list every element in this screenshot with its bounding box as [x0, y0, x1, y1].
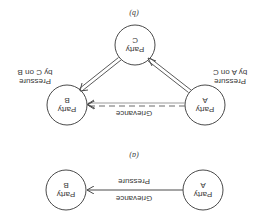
panel-a-pressure-label: Pressure [103, 177, 165, 186]
panel-b-caption: (b) [123, 9, 145, 18]
panel-b-party-a: Party A [185, 85, 225, 125]
panel-b-party-c: Party C [115, 25, 155, 65]
panel-b-pressure-a-on-c-label: Pressure by A on C [204, 68, 256, 86]
panel-b-pressure-c-on-b-label: Pressure by C on B [9, 68, 61, 86]
figure: Party A Party B Grievance Pressure (a) P… [0, 0, 264, 224]
panel-a-caption: (a) [123, 151, 145, 160]
panel-a-party-b: Party B [46, 170, 86, 210]
panel-b-party-b: Party B [47, 85, 87, 125]
panel-a-party-a: Party A [183, 170, 223, 210]
panel-a-grievance-label: Grievance [103, 194, 165, 203]
panel-b-grievance-label: Grievance [102, 109, 166, 118]
